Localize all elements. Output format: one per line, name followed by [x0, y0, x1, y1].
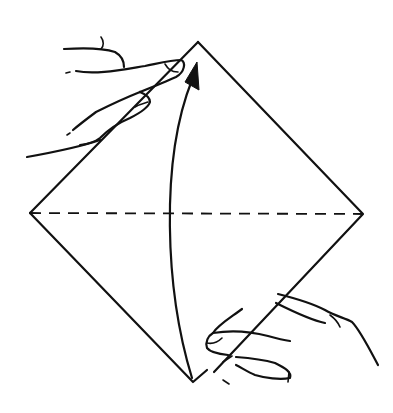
hand-upper-left-icon	[27, 37, 184, 157]
hand-lower-right-icon	[206, 294, 378, 384]
paper-diamond	[30, 42, 363, 382]
origami-diagram: Square paper turned as a diamond; fold b…	[0, 0, 393, 413]
fold-line-dashed	[30, 213, 363, 214]
fold-arrow-up-icon	[170, 62, 199, 378]
diagram-canvas	[0, 0, 393, 413]
